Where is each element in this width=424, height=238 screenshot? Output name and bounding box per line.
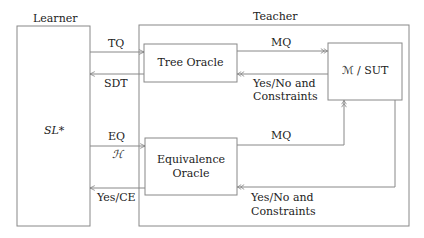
sut-label: ℳ / SUT — [328, 65, 402, 77]
tree-oracle-label: Tree Oracle — [144, 57, 237, 69]
diagram-canvas — [0, 0, 424, 238]
tq-label: TQ — [108, 38, 124, 50]
yesno-eq-label-2: Constraints — [251, 206, 316, 218]
eq-label: EQ — [108, 131, 125, 143]
learner-algorithm: SL* — [44, 125, 64, 137]
learner-title: Learner — [33, 13, 77, 25]
yesno-tree-label-2: Constraints — [253, 91, 318, 103]
yes-ce-label: Yes/CE — [97, 192, 136, 204]
equivalence-oracle-line2: Oracle — [145, 168, 237, 180]
yesno-tree-label-1: Yes/No and — [253, 78, 316, 90]
mq-tree-label: MQ — [271, 37, 291, 49]
yesno-eq-arrow — [237, 100, 395, 187]
teacher-title: Teacher — [253, 11, 298, 23]
yesno-eq-label-1: Yes/No and — [251, 192, 314, 204]
hypothesis-label: ℋ — [112, 149, 123, 161]
sdt-label: SDT — [104, 78, 128, 90]
equivalence-oracle-line1: Equivalence — [145, 154, 237, 166]
mq-eq-label: MQ — [271, 130, 291, 142]
